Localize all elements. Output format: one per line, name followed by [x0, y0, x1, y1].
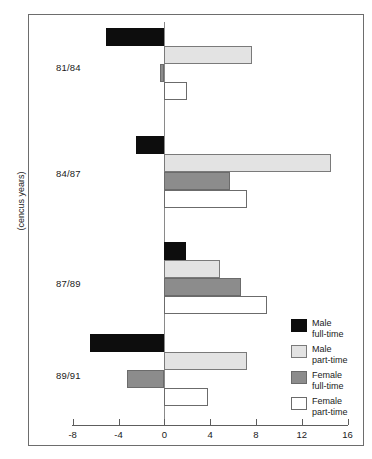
bar — [164, 242, 186, 260]
bar — [136, 136, 165, 154]
x-axis-line — [72, 425, 348, 426]
bar — [164, 172, 229, 190]
legend-swatch — [291, 397, 307, 410]
x-tick-label: -4 — [106, 429, 132, 440]
legend-swatch — [291, 345, 307, 358]
legend-swatch — [291, 371, 307, 384]
x-tick-label: -8 — [60, 429, 86, 440]
bar — [164, 296, 267, 314]
legend-item: Femalepart-time — [291, 396, 367, 417]
bar — [164, 388, 208, 406]
y-axis-title: (cencus years) — [16, 156, 26, 246]
legend-item: Malefull-time — [291, 318, 367, 339]
bar — [164, 260, 220, 278]
x-tick-label: 16 — [335, 429, 361, 440]
legend-label: Malepart-time — [312, 344, 348, 365]
legend-label: Femalefull-time — [312, 370, 344, 391]
x-tick — [164, 419, 165, 425]
bar — [106, 28, 164, 46]
bar — [127, 370, 165, 388]
category-label: 89/91 — [56, 370, 81, 381]
legend-swatch — [291, 319, 307, 332]
legend-label: Femalepart-time — [312, 396, 348, 417]
bar — [160, 64, 165, 82]
legend-label: Malefull-time — [312, 318, 344, 339]
legend: Malefull-timeMalepart-timeFemalefull-tim… — [291, 318, 367, 422]
x-tick — [256, 419, 257, 425]
bar — [164, 46, 252, 64]
legend-item: Femalefull-time — [291, 370, 367, 391]
bar — [164, 154, 331, 172]
x-tick-label: 4 — [197, 429, 223, 440]
x-tick — [73, 419, 74, 425]
category-label: 81/84 — [56, 62, 81, 73]
bar-chart: 81/8484/8787/8989/91 (cencus years) -8-4… — [0, 0, 372, 459]
x-tick-label: 8 — [243, 429, 269, 440]
x-tick — [210, 419, 211, 425]
bar — [164, 82, 187, 100]
x-tick — [119, 419, 120, 425]
bar — [164, 278, 241, 296]
legend-item: Malepart-time — [291, 344, 367, 365]
category-label: 87/89 — [56, 278, 81, 289]
bar — [164, 352, 246, 370]
x-tick-label: 0 — [151, 429, 177, 440]
x-tick-label: 12 — [289, 429, 315, 440]
bar — [164, 190, 246, 208]
bar — [90, 334, 164, 352]
category-label: 84/87 — [56, 168, 81, 179]
